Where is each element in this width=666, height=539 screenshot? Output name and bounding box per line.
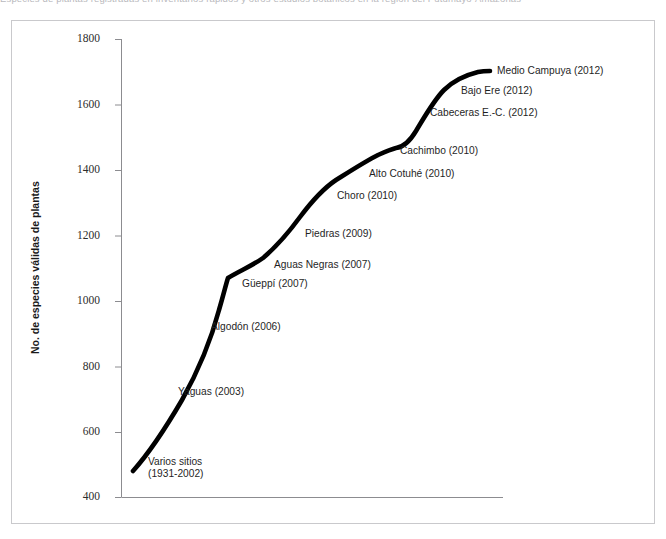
annotation-cachimbo: Cachimbo (2010) [400, 145, 478, 157]
chart-plot-area: No. de especies válidas de plantas 1800 … [0, 0, 666, 539]
annotation-bajo-ere: Bajo Ere (2012) [461, 85, 532, 97]
annotation-gueppi: Güeppí (2007) [242, 278, 308, 290]
annotation-medio-campuya: Medio Campuya (2012) [497, 65, 603, 77]
annotation-varios-sitios-line1: Varios sitios [148, 456, 202, 467]
annotation-cabeceras-ec: Cabeceras E.-C. (2012) [430, 107, 538, 119]
annotation-aguas-negras: Aguas Negras (2007) [274, 259, 371, 271]
annotation-yaguas: Yaguas (2003) [178, 386, 244, 398]
annotation-varios-sitios-line2: (1931-2002) [148, 468, 204, 479]
annotation-piedras: Piedras (2009) [305, 228, 372, 240]
annotation-choro: Choro (2010) [337, 190, 397, 202]
y-axis-ticks [115, 40, 122, 498]
annotation-varios-sitios: Varios sitios(1931-2002) [148, 456, 204, 481]
annotation-algodon: Algodón (2006) [211, 321, 281, 333]
annotation-alto-cotuhe: Alto Cotuhé (2010) [369, 168, 455, 180]
